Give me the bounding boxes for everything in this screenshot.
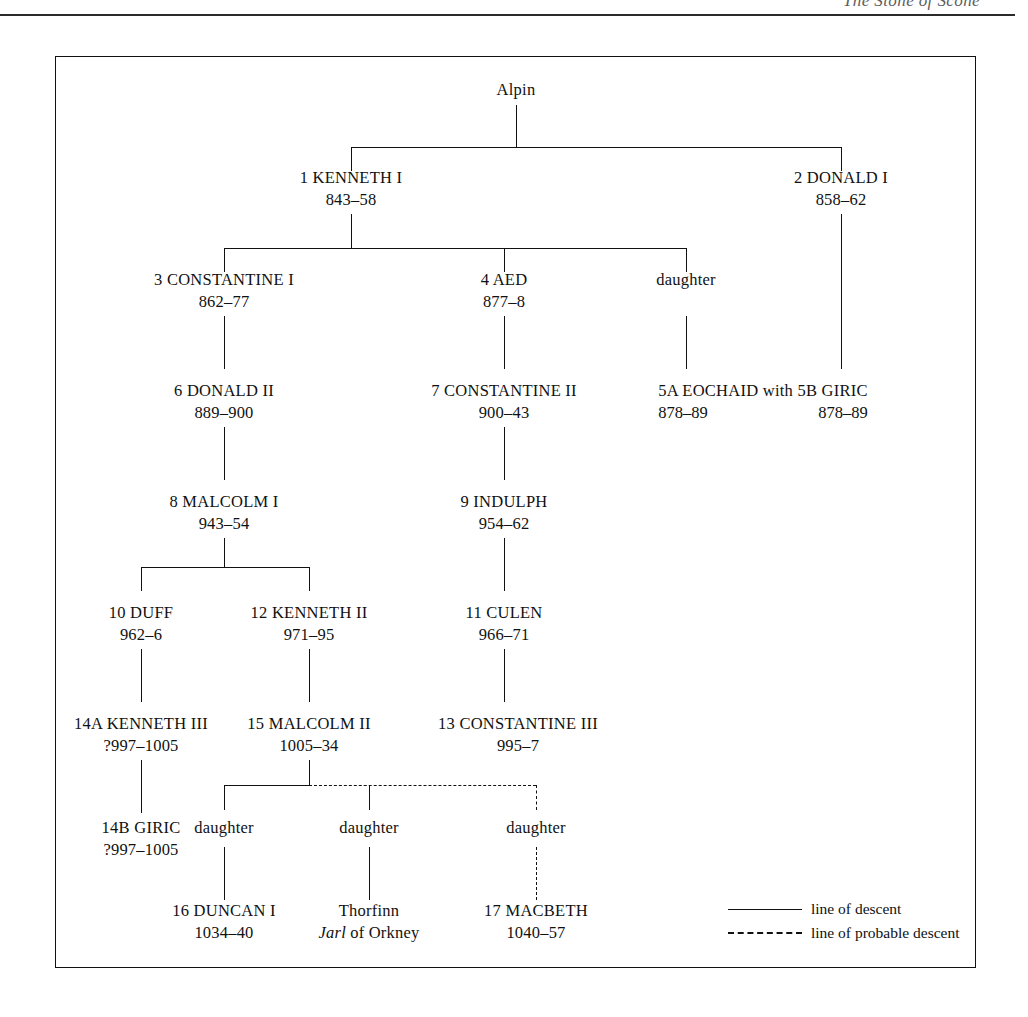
node-eochaid-with-giric-label: 5A EOCHAID with 5B GIRIC [658,380,868,402]
node-duncan-i[interactable]: 16 DUNCAN I 1034–40 [172,900,276,944]
node-malcolm-ii-label: 15 MALCOLM II [247,713,370,735]
node-alpin-label: Alpin [497,79,536,101]
node-constantine-iii[interactable]: 13 CONSTANTINE III 995–7 [438,713,598,757]
node-thorfinn-title-jarl: Jarl [319,923,346,942]
node-culen-dates: 966–71 [465,624,542,646]
node-daughter-duncan-line-label: daughter [194,817,254,839]
node-donald-i[interactable]: 2 DONALD I 858–62 [794,167,888,211]
node-thorfinn-title-of-orkney: of Orkney [346,923,419,942]
node-kenneth-ii-dates: 971–95 [251,624,368,646]
node-constantine-i[interactable]: 3 CONSTANTINE I 862–77 [154,269,294,313]
node-kenneth-i-dates: 843–58 [300,189,403,211]
connector-donald2-malcolm1 [224,427,225,480]
node-daughter-of-kenneth-i-label: daughter [656,269,716,291]
node-malcolm-i-label: 8 MALCOLM I [169,491,278,513]
connector-malcolm2-down [309,760,310,785]
connector-constantine1-donald2 [224,316,225,369]
node-malcolm-i[interactable]: 8 MALCOLM I 943–54 [169,491,278,535]
node-duff[interactable]: 10 DUFF 962–6 [109,602,174,646]
node-constantine-iii-label: 13 CONSTANTINE III [438,713,598,735]
connector-culen-constantine3 [504,649,505,702]
node-kenneth-iii[interactable]: 14A KENNETH III ?997–1005 [74,713,208,757]
node-donald-ii-label: 6 DONALD II [174,380,274,402]
node-kenneth-iii-label: 14A KENNETH III [74,713,208,735]
connector-bar-daughters-dashed [309,785,536,786]
connector-to-daughter-c [536,785,537,810]
node-kenneth-i[interactable]: 1 KENNETH I 843–58 [300,167,403,211]
node-macbeth-label: 17 MACBETH [484,900,588,922]
node-constantine-ii[interactable]: 7 CONSTANTINE II 900–43 [431,380,577,424]
node-donald-ii[interactable]: 6 DONALD II 889–900 [174,380,274,424]
node-eochaid-with-giric-dates: 878–89 878–89 [658,402,868,424]
connector-bar-gen1 [351,147,841,148]
solid-line-icon [728,909,802,910]
node-thorfinn[interactable]: Thorfinn Jarl of Orkney [319,900,420,944]
node-thorfinn-label: Thorfinn [319,900,420,922]
node-aed-label: 4 AED [481,269,528,291]
legend: line of descent line of probable descent [728,897,960,945]
page-running-header: The Stone of Scone [0,0,1028,34]
connector-aed-constantine2 [504,316,505,369]
node-malcolm-i-dates: 943–54 [169,513,278,535]
connector-daughter-a-duncan1 [224,847,225,900]
node-constantine-i-label: 3 CONSTANTINE I [154,269,294,291]
node-daughter-macbeth-line-label: daughter [506,817,566,839]
node-kenneth-ii-label: 12 KENNETH II [251,602,368,624]
header-rule [0,14,1015,16]
node-kenneth-iii-dates: ?997–1005 [74,735,208,757]
node-giric-14b-dates: ?997–1005 [102,839,181,861]
node-alpin[interactable]: Alpin [497,79,536,101]
node-malcolm-ii[interactable]: 15 MALCOLM II 1005–34 [247,713,370,757]
node-duff-dates: 962–6 [109,624,174,646]
node-constantine-ii-dates: 900–43 [431,402,577,424]
node-donald-ii-dates: 889–900 [174,402,274,424]
node-daughter-thorfinn-line[interactable]: daughter [339,817,399,839]
connector-duff-kenneth3 [141,649,142,702]
node-culen[interactable]: 11 CULEN 966–71 [465,602,542,646]
node-eochaid-dates: 878–89 [658,402,708,424]
connector-daughter-eochaid [686,316,687,369]
node-constantine-iii-dates: 995–7 [438,735,598,757]
node-duncan-i-label: 16 DUNCAN I [172,900,276,922]
connector-bar-gen2 [224,248,686,249]
connector-malcolm1-down [224,538,225,567]
figure-frame: Alpin 1 KENNETH I 843–58 2 DONALD I 858–… [55,56,976,968]
node-constantine-i-dates: 862–77 [154,291,294,313]
node-macbeth-dates: 1040–57 [484,922,588,944]
connector-constantine2-indulph [504,427,505,480]
node-indulph[interactable]: 9 INDULPH 954–62 [460,491,547,535]
node-kenneth-ii[interactable]: 12 KENNETH II 971–95 [251,602,368,646]
connector-kenneth2-malcolm2 [309,649,310,702]
node-giric5b-dates: 878–89 [818,402,868,424]
connector-kenneth1-down [351,214,352,248]
connector-alpin-down [516,105,517,147]
node-kenneth-i-label: 1 KENNETH I [300,167,403,189]
dashed-line-icon [728,932,802,934]
node-daughter-duncan-line[interactable]: daughter [194,817,254,839]
node-donald-i-label: 2 DONALD I [794,167,888,189]
node-malcolm-ii-dates: 1005–34 [247,735,370,757]
node-duncan-i-dates: 1034–40 [172,922,276,944]
node-aed[interactable]: 4 AED 877–8 [481,269,528,313]
connector-to-daughter-a [224,785,225,810]
connector-indulph-culen [504,538,505,591]
connector-daughter-c-macbeth [536,847,537,900]
node-macbeth[interactable]: 17 MACBETH 1040–57 [484,900,588,944]
node-daughter-of-kenneth-i[interactable]: daughter [656,269,716,291]
node-thorfinn-title: Jarl of Orkney [319,922,420,944]
node-culen-label: 11 CULEN [465,602,542,624]
legend-item-probable-descent-label: line of probable descent [811,924,959,942]
node-daughter-macbeth-line[interactable]: daughter [506,817,566,839]
connector-kenneth3-giric14b [141,760,142,813]
connector-to-duff [141,567,142,591]
node-giric-14b[interactable]: 14B GIRIC ?997–1005 [102,817,181,861]
connector-to-daughter-b [369,785,370,810]
node-aed-dates: 877–8 [481,291,528,313]
node-eochaid-with-giric[interactable]: 5A EOCHAID with 5B GIRIC 878–89 878–89 [658,380,868,424]
running-head-title: The Stone of Scone [843,0,980,11]
legend-item-descent: line of descent [728,897,960,921]
node-duff-label: 10 DUFF [109,602,174,624]
node-indulph-dates: 954–62 [460,513,547,535]
node-daughter-thorfinn-line-label: daughter [339,817,399,839]
node-giric-14b-label: 14B GIRIC [102,817,181,839]
